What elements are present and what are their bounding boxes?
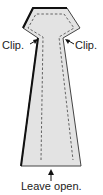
tie-piece-shape — [21, 8, 81, 166]
clip-label-right: Clip. — [75, 40, 97, 51]
arrowhead-right-icon — [65, 39, 70, 44]
arrowhead-up-icon — [48, 169, 54, 175]
tie-pattern-diagram — [0, 0, 103, 195]
leave-open-label: Leave open. — [21, 181, 82, 192]
clip-label-left: Clip. — [2, 40, 24, 51]
